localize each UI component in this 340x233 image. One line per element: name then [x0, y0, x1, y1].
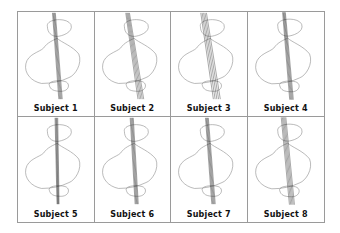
panel-label: Subject 8 [248, 210, 325, 219]
panel-label: Subject 7 [171, 210, 247, 219]
subject-panel-grid: Subject 1 Subject 2 Subject 3 Subject 4 … [17, 11, 325, 223]
shape-outline-diagram [18, 12, 94, 100]
shape-outline-diagram [248, 12, 325, 100]
shape-outline-diagram [171, 12, 247, 100]
panel-label: Subject 5 [18, 210, 94, 219]
panel-subject-2: Subject 2 [95, 12, 172, 117]
panel-label: Subject 2 [95, 104, 171, 113]
panel-subject-7: Subject 7 [171, 117, 248, 222]
panel-label: Subject 1 [18, 104, 94, 113]
shape-outline-diagram [95, 12, 171, 100]
panel-subject-6: Subject 6 [95, 117, 172, 222]
panel-subject-3: Subject 3 [171, 12, 248, 117]
shape-outline-diagram [18, 117, 94, 205]
panel-label: Subject 6 [95, 210, 171, 219]
panel-subject-1: Subject 1 [18, 12, 95, 117]
panel-subject-5: Subject 5 [18, 117, 95, 222]
shape-outline-diagram [248, 117, 325, 205]
panel-label: Subject 4 [248, 104, 325, 113]
panel-label: Subject 3 [171, 104, 247, 113]
panel-subject-8: Subject 8 [248, 117, 325, 222]
shape-outline-diagram [171, 117, 247, 205]
panel-subject-4: Subject 4 [248, 12, 325, 117]
shape-outline-diagram [95, 117, 171, 205]
